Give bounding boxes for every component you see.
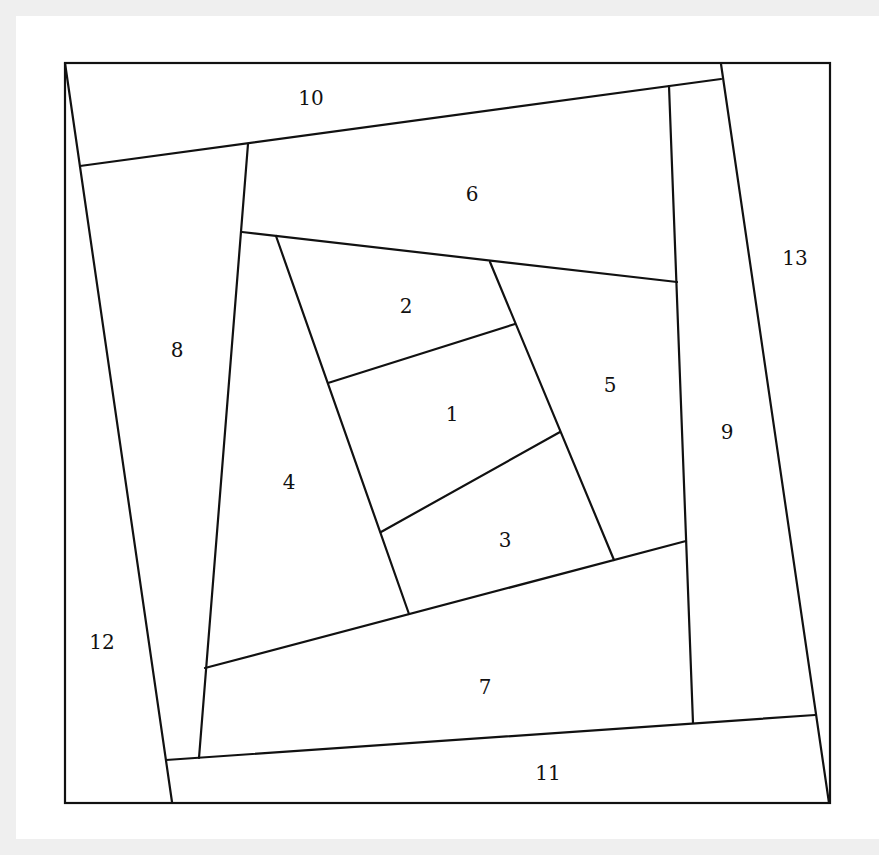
piece-label-2: 2 (400, 294, 413, 318)
piece-label-11: 11 (535, 761, 560, 785)
seam-1-3 (381, 432, 560, 532)
seam-7-top (205, 541, 686, 668)
piece-label-6: 6 (466, 182, 479, 206)
piece-label-5: 5 (604, 373, 617, 397)
piece-label-9: 9 (721, 420, 734, 444)
outer-border (65, 63, 830, 803)
piece-label-7: 7 (479, 675, 492, 699)
piece-label-4: 4 (283, 470, 296, 494)
seam-lines (65, 63, 829, 803)
seam-5-left (490, 262, 614, 560)
piece-label-8: 8 (171, 338, 184, 362)
piece-label-13: 13 (782, 246, 807, 270)
seam-6-bottom (242, 232, 677, 282)
seam-13-left (721, 64, 829, 803)
piece-label-10: 10 (298, 86, 323, 110)
seam-8-right (199, 144, 248, 758)
seam-11-top (166, 715, 815, 760)
quilt-block-diagram (0, 0, 879, 855)
piece-label-12: 12 (89, 630, 114, 654)
seam-10-bottom (80, 79, 721, 166)
piece-label-1: 1 (446, 402, 459, 426)
seam-4-right (276, 236, 409, 614)
piece-label-3: 3 (499, 528, 512, 552)
seam-12-right (65, 63, 172, 802)
seam-9-left (669, 86, 693, 723)
seam-2-1 (328, 324, 515, 383)
